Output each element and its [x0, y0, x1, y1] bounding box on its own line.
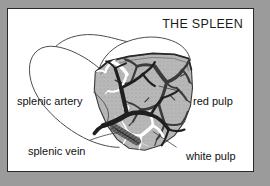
label-white-pulp: white pulp	[186, 150, 236, 162]
label-splenic-artery: splenic artery	[17, 95, 82, 107]
label-splenic-vein: splenic vein	[28, 145, 85, 157]
figure-frame: THE SPLEEN splenic artery splenic vein r…	[0, 0, 270, 186]
label-red-pulp: red pulp	[193, 95, 233, 107]
figure-plate: THE SPLEEN splenic artery splenic vein r…	[7, 8, 254, 172]
figure-title: THE SPLEEN	[162, 17, 243, 31]
